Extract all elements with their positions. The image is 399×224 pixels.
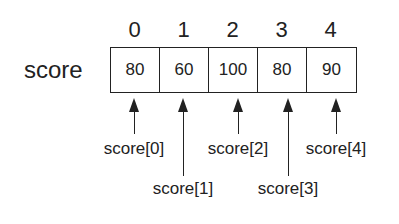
array-cell-4: 90 <box>307 48 356 92</box>
array-cell-2: 100 <box>209 48 258 92</box>
index-label-0: 0 <box>110 18 159 42</box>
array-box: 80 60 100 80 90 <box>110 47 357 93</box>
index-label-4: 4 <box>306 18 355 42</box>
index-label-3: 3 <box>257 18 306 42</box>
arrow-shaft-0 <box>134 110 136 134</box>
array-cell-0: 80 <box>111 48 160 92</box>
index-label-1: 1 <box>159 18 208 42</box>
index-label-2: 2 <box>208 18 257 42</box>
element-label-0: score[0] <box>89 139 179 159</box>
element-label-1: score[1] <box>138 179 228 199</box>
element-label-3: score[3] <box>243 179 333 199</box>
array-cell-1: 60 <box>160 48 209 92</box>
arrow-shaft-1 <box>183 110 185 176</box>
arrow-shaft-2 <box>238 110 240 134</box>
element-label-2: score[2] <box>193 139 283 159</box>
arrow-shaft-3 <box>288 110 290 176</box>
arrow-shaft-4 <box>336 110 338 134</box>
array-cell-3: 80 <box>258 48 307 92</box>
element-label-4: score[4] <box>291 139 381 159</box>
array-variable-name: score <box>24 55 83 85</box>
